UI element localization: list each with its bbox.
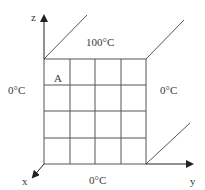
x-axis-label: x	[22, 176, 28, 187]
top-right-diagonal	[146, 20, 184, 59]
left-boundary-temp: 0°C	[8, 85, 25, 96]
top-boundary-temp: 100°C	[86, 37, 114, 48]
bottom-boundary-temp: 0°C	[89, 175, 106, 186]
z-axis-label: z	[31, 12, 36, 23]
x-axis-arrow	[33, 164, 44, 177]
right-boundary-temp: 0°C	[160, 85, 177, 96]
y-axis-label: y	[190, 176, 196, 187]
bottom-right-diagonal	[146, 123, 190, 164]
cell-a-label: A	[54, 73, 62, 84]
top-left-diagonal	[44, 15, 87, 59]
